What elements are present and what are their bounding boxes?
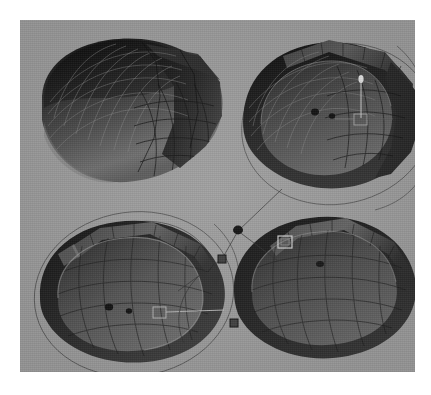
- gizmo-layer[interactable]: [170, 175, 300, 345]
- viewport-3d-quad[interactable]: [20, 20, 415, 372]
- empty-dot-gizmo[interactable]: [233, 226, 243, 235]
- vertex-dot[interactable]: [329, 113, 335, 119]
- vertex-dot[interactable]: [105, 303, 113, 310]
- vertex-dot[interactable]: [316, 261, 324, 267]
- empty-square-gizmo[interactable]: [230, 319, 238, 327]
- vertex-dot[interactable]: [311, 109, 319, 116]
- vertex-dot[interactable]: [126, 308, 132, 314]
- empty-square-gizmo[interactable]: [218, 255, 226, 263]
- empties-and-constraints: [170, 175, 300, 345]
- screenshot-root: [0, 0, 431, 395]
